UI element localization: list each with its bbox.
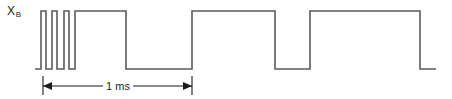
- dimension-label: 1 ms: [103, 81, 133, 92]
- waveform-figure: XB 1 ms: [0, 0, 452, 99]
- dimension-arrow-left-icon: [43, 82, 52, 90]
- dimension-arrow-right-icon: [183, 82, 192, 90]
- dimension-bar: [0, 0, 452, 99]
